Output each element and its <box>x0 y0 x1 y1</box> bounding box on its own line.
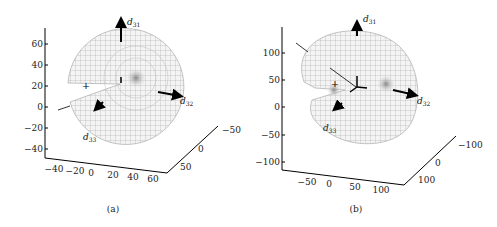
b-tick-z0: −100 <box>458 140 483 150</box>
b-tick-x2: 50 <box>349 182 361 192</box>
a-tick-v2: 20 <box>32 81 44 91</box>
figure: 60 40 20 0 −20 −40 −40 −20 0 20 40 60 −5… <box>0 0 497 227</box>
a-label-d31: d31 <box>127 17 140 28</box>
caption-b: (b) <box>350 204 363 214</box>
svg-text:+: + <box>82 80 90 91</box>
b-tick-z1: 0 <box>435 158 441 168</box>
a-tick-z0: −50 <box>222 125 241 135</box>
a-tick-v3: 0 <box>37 102 43 112</box>
a-tick-v4: −20 <box>24 123 43 133</box>
panel-a: 60 40 20 0 −20 −40 −40 −20 0 20 40 60 −5… <box>24 17 241 214</box>
a-tick-x2: 0 <box>88 168 94 178</box>
b-vertical-ticks: 100 50 0 −50 −100 <box>255 48 285 167</box>
a-tick-x1: −20 <box>66 166 85 176</box>
b-x-ticks: −50 0 50 100 <box>298 177 390 195</box>
a-tick-z1: 0 <box>198 144 204 154</box>
a-tick-z2: 50 <box>180 162 192 172</box>
a-tick-x0: −40 <box>45 164 64 174</box>
a-vertical-ticks: 60 40 20 0 −20 −40 <box>24 39 48 154</box>
caption-a: (a) <box>107 204 119 214</box>
b-tick-x0: −50 <box>298 177 317 187</box>
a-tick-v5: −40 <box>24 144 43 154</box>
b-tick-z2: 100 <box>418 175 435 185</box>
a-label-d32: d32 <box>180 96 194 107</box>
b-label-d31: d31 <box>363 14 376 25</box>
b-tick-x1: 0 <box>326 179 332 189</box>
a-tick-x5: 60 <box>147 174 159 184</box>
a-tick-x3: 20 <box>107 170 119 180</box>
b-tick-v3: −50 <box>261 130 280 140</box>
b-tick-x3: 100 <box>372 185 389 195</box>
b-tick-v1: 50 <box>269 75 281 85</box>
b-tick-v4: −100 <box>255 157 280 167</box>
svg-text:+: + <box>331 78 339 89</box>
a-tick-x4: 40 <box>127 172 139 182</box>
b-tick-v0: 100 <box>263 48 280 58</box>
a-z-ticks: −50 0 50 <box>180 125 241 172</box>
a-x-ticks: −40 −20 0 20 40 60 <box>45 164 159 184</box>
a-tick-v1: 40 <box>32 60 44 70</box>
a-tick-v0: 60 <box>32 39 44 49</box>
panel-b: 100 50 0 −50 −100 −50 0 50 100 −100 0 10… <box>255 14 483 214</box>
b-tick-v2: 0 <box>274 102 280 112</box>
b-label-d32: d32 <box>417 96 431 107</box>
